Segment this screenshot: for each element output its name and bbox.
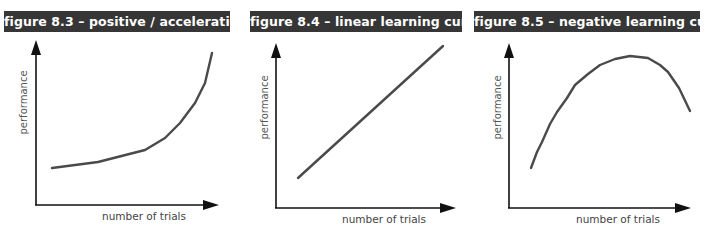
x-axis-label: number of trials: [576, 213, 660, 225]
y-axis-arrow-icon: [271, 43, 281, 58]
y-axis-label: performance: [259, 76, 270, 140]
y-axis-label: performance: [18, 71, 29, 135]
learning-curve-line: [52, 53, 212, 168]
plot-area: [0, 0, 235, 236]
y-axis-arrow-icon: [31, 40, 41, 55]
y-axis-label: performance: [492, 76, 503, 140]
x-axis-label: number of trials: [102, 210, 186, 222]
y-axis-arrow-icon: [504, 43, 514, 58]
x-axis-arrow-icon: [203, 200, 219, 210]
learning-curve-line: [298, 46, 443, 178]
chart-panel-fig-8-4: figure 8.4 – linear learning curve perfo…: [235, 0, 470, 236]
plot-area: [470, 0, 705, 236]
x-axis-arrow-icon: [675, 203, 691, 213]
chart-panel-fig-8-3: figure 8.3 – positive / acceleration per…: [0, 0, 235, 236]
chart-panel-fig-8-5: figure 8.5 – negative learning curve per…: [470, 0, 705, 236]
x-axis-arrow-icon: [440, 203, 456, 213]
plot-area: [235, 0, 470, 236]
x-axis-label: number of trials: [342, 213, 426, 225]
learning-curve-line: [531, 56, 690, 168]
